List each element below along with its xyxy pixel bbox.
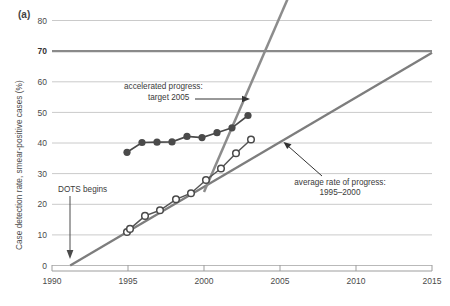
data-point-open bbox=[203, 177, 210, 184]
data-point-filled bbox=[153, 139, 160, 146]
chart-figure: (a) Case detection rate, smear-positive … bbox=[0, 0, 450, 306]
y-tick-50: 50 bbox=[38, 108, 48, 118]
data-point-filled bbox=[138, 139, 145, 146]
data-point-filled bbox=[244, 112, 251, 119]
accelerated-progress-arrow bbox=[195, 96, 250, 102]
data-point-filled bbox=[123, 149, 130, 156]
data-point-filled bbox=[183, 133, 190, 140]
data-point-open bbox=[157, 207, 164, 214]
data-point-open bbox=[142, 213, 149, 220]
series-filled-circles bbox=[123, 112, 251, 156]
x-tick-2010: 2010 bbox=[347, 276, 366, 286]
y-tick-60: 60 bbox=[38, 77, 48, 87]
dots-begins-label: DOTS begins bbox=[58, 185, 107, 194]
x-tick-labels: 1990 1995 2000 2005 2010 2015 bbox=[43, 276, 442, 286]
accelerated-progress-label-line1: accelerated progress: bbox=[124, 82, 203, 91]
y-tick-40: 40 bbox=[38, 138, 48, 148]
data-point-open bbox=[218, 165, 225, 172]
data-point-open bbox=[248, 136, 255, 143]
x-tick-2000: 2000 bbox=[195, 276, 214, 286]
y-tick-30: 30 bbox=[38, 169, 48, 179]
average-progress-arrow bbox=[284, 142, 323, 176]
data-point-open bbox=[233, 150, 240, 157]
dots-begins-marker bbox=[67, 196, 74, 259]
data-point-filled bbox=[168, 138, 175, 145]
y-tick-labels: 0 10 20 30 40 50 60 70 80 bbox=[38, 16, 48, 271]
y-tick-10: 10 bbox=[38, 230, 48, 240]
data-point-open bbox=[127, 226, 134, 233]
x-tick-1990: 1990 bbox=[43, 276, 62, 286]
y-tick-70: 70 bbox=[38, 46, 48, 56]
y-tick-0: 0 bbox=[42, 261, 47, 271]
data-point-open bbox=[188, 190, 195, 197]
x-tick-2015: 2015 bbox=[423, 276, 442, 286]
y-tick-80: 80 bbox=[38, 16, 48, 26]
average-progress-label-line2: 1995–2000 bbox=[320, 188, 361, 197]
x-tick-2005: 2005 bbox=[271, 276, 290, 286]
data-point-filled bbox=[228, 124, 235, 131]
gridlines bbox=[52, 21, 432, 266]
accelerated-progress-reference-line bbox=[204, 0, 292, 192]
data-point-filled bbox=[213, 129, 220, 136]
data-point-filled bbox=[198, 134, 205, 141]
x-tick-1995: 1995 bbox=[119, 276, 138, 286]
y-tick-20: 20 bbox=[38, 199, 48, 209]
average-progress-label-line1: average rate of progress: bbox=[294, 178, 385, 187]
chart-svg: 0 10 20 30 40 50 60 70 80 1990 1995 2000… bbox=[0, 0, 450, 306]
series-open-circles bbox=[124, 136, 255, 235]
accelerated-progress-label-line2: target 2005 bbox=[148, 93, 190, 102]
data-point-open bbox=[173, 196, 180, 203]
